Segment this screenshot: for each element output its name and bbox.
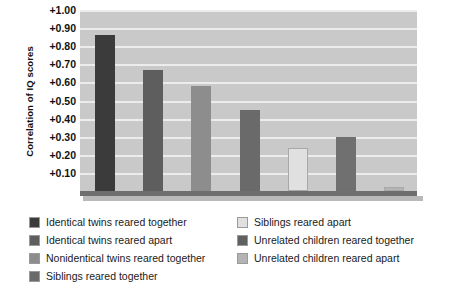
iq-correlation-bar-chart: Correlation of IQ scores +1.00+0.90+0.80… bbox=[0, 0, 467, 212]
legend-swatch bbox=[237, 235, 248, 246]
y-axis-title: Correlation of IQ scores bbox=[24, 12, 35, 192]
legend-label: Identical twins reared together bbox=[46, 217, 187, 228]
legend-item[interactable]: Identical twins reared together bbox=[29, 213, 234, 231]
legend-swatch bbox=[237, 253, 248, 264]
legend-item[interactable]: Unrelated children reared apart bbox=[237, 249, 465, 267]
legend-column-right: Siblings reared apartUnrelated children … bbox=[237, 213, 465, 267]
bar bbox=[336, 137, 356, 191]
legend-swatch bbox=[29, 253, 40, 264]
y-axis-tick-label: +0.90 bbox=[49, 23, 76, 33]
y-axis-tick-label: +0.80 bbox=[49, 41, 76, 51]
bar bbox=[288, 148, 308, 191]
bar bbox=[143, 70, 163, 191]
bar-series bbox=[80, 10, 417, 191]
legend-column-left: Identical twins reared togetherIdentical… bbox=[29, 213, 234, 285]
plot-area bbox=[80, 10, 417, 196]
legend-swatch bbox=[29, 235, 40, 246]
legend-label: Siblings reared apart bbox=[254, 217, 351, 228]
legend-item[interactable]: Siblings reared together bbox=[29, 267, 234, 285]
y-axis-tick-label: +0.60 bbox=[49, 77, 76, 87]
legend-swatch bbox=[29, 217, 40, 228]
y-axis-tick-label: +0.70 bbox=[49, 59, 76, 69]
y-axis-tick-label: +0.30 bbox=[49, 132, 76, 142]
y-axis-tick-labels: +1.00+0.90+0.80+0.70+0.60+0.50+0.40+0.30… bbox=[36, 10, 78, 196]
legend-swatch bbox=[237, 217, 248, 228]
legend-label: Unrelated children reared together bbox=[254, 235, 414, 246]
bar bbox=[191, 86, 211, 191]
legend-label: Identical twins reared apart bbox=[46, 235, 172, 246]
legend-item[interactable]: Siblings reared apart bbox=[237, 213, 465, 231]
y-axis-tick-label: +0.10 bbox=[49, 168, 76, 178]
chart-page: Correlation of IQ scores +1.00+0.90+0.80… bbox=[0, 0, 467, 301]
legend-item[interactable]: Identical twins reared apart bbox=[29, 231, 234, 249]
plot-drop-shadow bbox=[83, 196, 423, 201]
y-axis-tick-label: +0.50 bbox=[49, 96, 76, 106]
y-axis-tick-label: +0.40 bbox=[49, 114, 76, 124]
bar bbox=[95, 35, 115, 191]
legend-label: Unrelated children reared apart bbox=[254, 253, 399, 264]
legend-label: Nonidentical twins reared together bbox=[46, 253, 205, 264]
chart-legend: Identical twins reared togetherIdentical… bbox=[0, 213, 467, 301]
bar bbox=[240, 110, 260, 191]
bar bbox=[384, 187, 404, 191]
legend-item[interactable]: Nonidentical twins reared together bbox=[29, 249, 234, 267]
legend-label: Siblings reared together bbox=[46, 271, 158, 282]
y-axis-tick-label: +0.20 bbox=[49, 150, 76, 160]
y-axis-tick-label: +1.00 bbox=[49, 5, 76, 15]
legend-swatch bbox=[29, 271, 40, 282]
legend-item[interactable]: Unrelated children reared together bbox=[237, 231, 465, 249]
